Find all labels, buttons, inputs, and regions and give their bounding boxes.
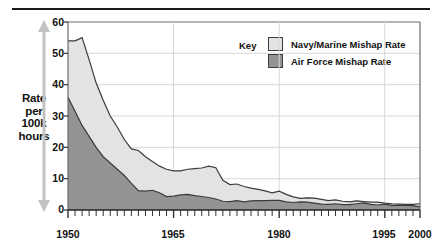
chart-figure: Rate per 100k hours 60 50 40 30 20 10 0 … (0, 0, 440, 248)
plot-area (0, 0, 440, 248)
stacked-area-plot (0, 0, 440, 248)
